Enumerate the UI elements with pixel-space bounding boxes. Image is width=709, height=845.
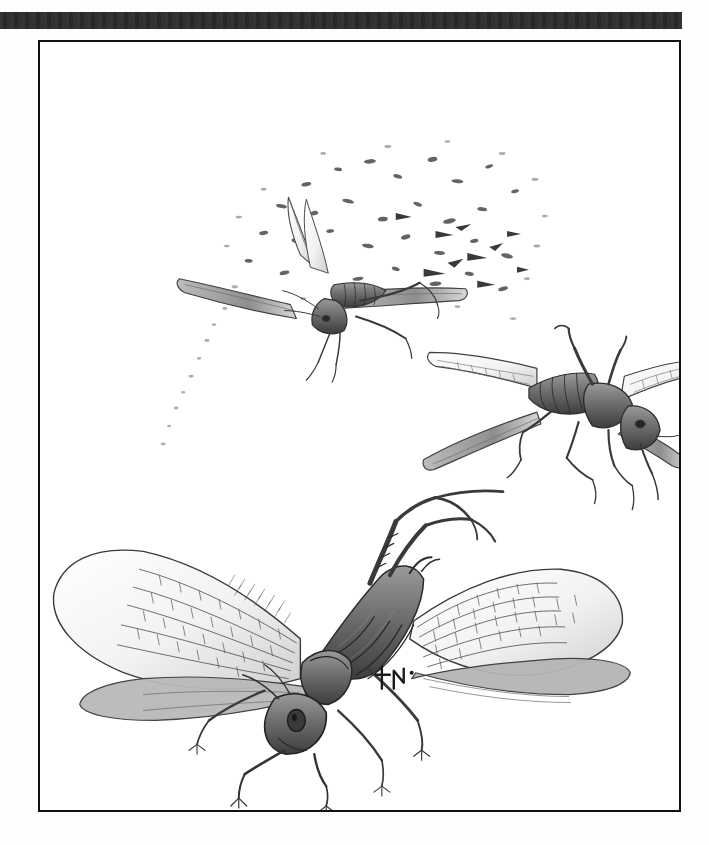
figure-locust-bottom [60, 492, 650, 810]
signature-monogram [370, 662, 425, 702]
illustration-frame [38, 40, 681, 812]
illustration-canvas [40, 42, 679, 810]
figure-swarm [210, 122, 570, 322]
black-header-bar [0, 12, 682, 29]
page-root [0, 0, 709, 845]
